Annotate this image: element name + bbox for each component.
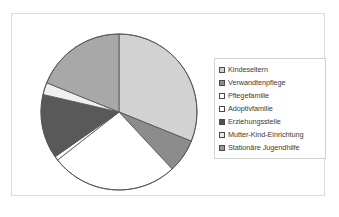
legend-item-label: Mutter-Kind-Einrichtung xyxy=(228,130,304,139)
legend-swatch-icon xyxy=(219,80,225,86)
legend-swatch-icon xyxy=(219,145,225,151)
legend-item[interactable]: Pflegefamilie xyxy=(219,89,322,102)
chart-legend: KindeselternVerwandtenpflegePflegefamili… xyxy=(214,58,326,159)
chart-frame: Kindeseltern: 31.1%Verwandtenpflege: 6.9… xyxy=(11,13,325,196)
legend-swatch-icon xyxy=(219,106,225,112)
legend-item-label: Erziehungsstelle xyxy=(228,117,281,126)
legend-item-label: Pflegefamilie xyxy=(228,91,269,100)
pie-chart-plot-area: Kindeseltern: 31.1%Verwandtenpflege: 6.9… xyxy=(40,33,198,191)
legend-swatch-icon xyxy=(219,67,225,73)
legend-swatch-icon xyxy=(219,132,225,138)
legend-item[interactable]: Verwandtenpflege xyxy=(219,76,322,89)
legend-item[interactable]: Mutter-Kind-Einrichtung xyxy=(219,128,322,141)
pie-slice-group: Kindeseltern: 31.1%Verwandtenpflege: 6.9… xyxy=(41,34,197,190)
legend-item[interactable]: Kindeseltern xyxy=(219,63,322,76)
legend-item-label: Adoptivfamilie xyxy=(228,104,273,113)
legend-item[interactable]: Erziehungsstelle xyxy=(219,115,322,128)
legend-swatch-icon xyxy=(219,119,225,125)
legend-item[interactable]: Adoptivfamilie xyxy=(219,102,322,115)
legend-item-label: Verwandtenpflege xyxy=(228,78,286,87)
legend-item[interactable]: Stationäre Jugendhilfe xyxy=(219,141,322,154)
legend-item-label: Stationäre Jugendhilfe xyxy=(228,143,300,152)
legend-swatch-icon xyxy=(219,93,225,99)
legend-item-label: Kindeseltern xyxy=(228,65,268,74)
pie-chart-svg: Kindeseltern: 31.1%Verwandtenpflege: 6.9… xyxy=(40,33,198,191)
